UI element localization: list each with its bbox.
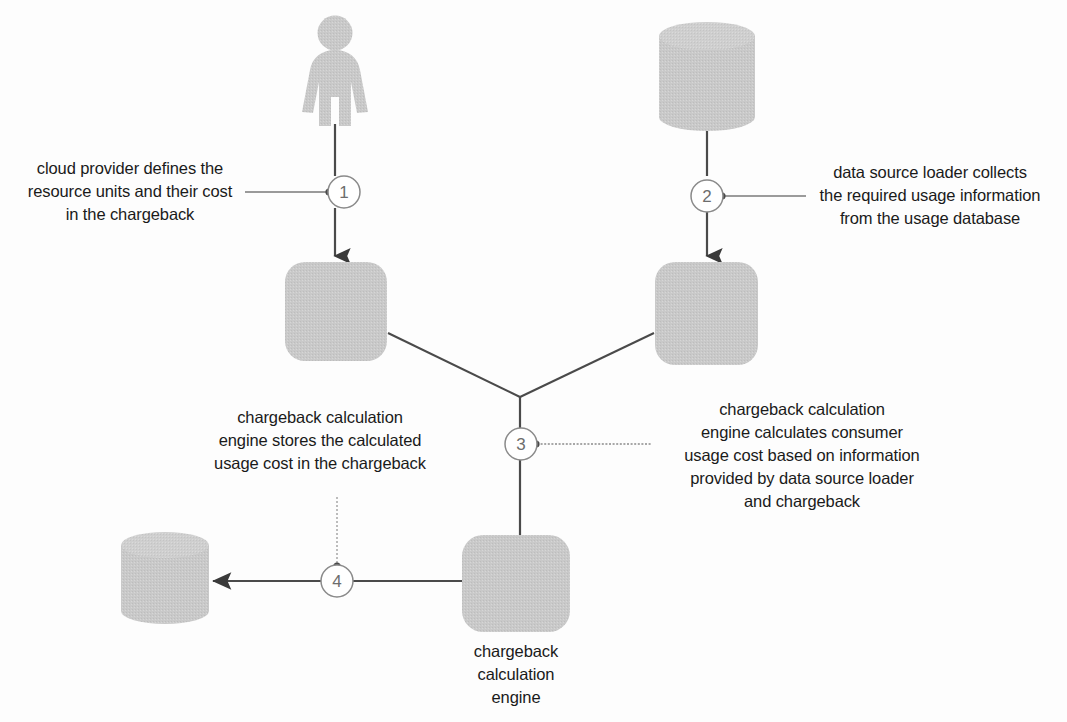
step-3-description: chargeback calculation engine calculates…: [648, 398, 956, 513]
chargeback-store-cylinder-icon: [121, 532, 209, 624]
chargeback-box: [285, 262, 387, 361]
chargeback-calculation-engine-caption: chargeback calculation engine: [426, 640, 606, 709]
step-circle-2-label: 2: [702, 187, 711, 206]
data-source-loader-box: [655, 262, 758, 365]
connector-loader-to-junction: [520, 333, 654, 397]
usage-database-cylinder-icon: [659, 22, 755, 131]
step-circle-3: 3: [505, 428, 537, 460]
step-circle-2: 2: [691, 180, 723, 212]
chargeback-calculation-engine-box: [462, 535, 570, 632]
diagram-graphics: 1 2 3 4: [0, 0, 1067, 722]
step-2-description: data source loader collects the required…: [806, 161, 1054, 230]
step-circle-4-label: 4: [332, 572, 341, 591]
step-1-description: cloud provider defines the resource unit…: [14, 157, 246, 226]
cloud-provider-actor-icon: [302, 16, 368, 127]
step-circle-3-label: 3: [516, 435, 525, 454]
diagram-canvas: 1 2 3 4 cloud provider defines the resou…: [0, 0, 1067, 722]
step-circle-1-label: 1: [339, 183, 348, 202]
step-4-description: chargeback calculation engine stores the…: [165, 406, 475, 475]
connector-chargeback-to-junction: [388, 333, 520, 397]
step-circle-1: 1: [328, 176, 360, 208]
step-circle-4: 4: [321, 565, 353, 597]
